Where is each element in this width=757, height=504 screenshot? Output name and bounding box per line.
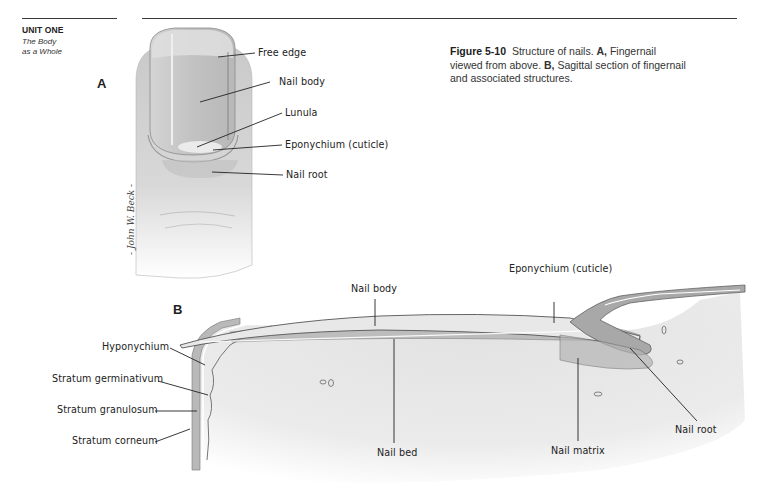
- label-nail-body-a: Nail body: [279, 76, 325, 87]
- label-lunula: Lunula: [285, 107, 318, 118]
- label-nail-matrix: Nail matrix: [551, 445, 605, 456]
- sagittal-section-illustration: [180, 285, 745, 483]
- label-nail-root-b: Nail root: [675, 424, 717, 435]
- panel-b-label: B: [173, 302, 182, 317]
- label-stratum-germinativum: Stratum germinativum: [52, 373, 163, 384]
- nail-illustrations: [0, 0, 757, 504]
- finger-illustration: [136, 28, 252, 278]
- label-free-edge: Free edge: [258, 47, 306, 58]
- label-stratum-granulosum: Stratum granulosum: [57, 404, 158, 415]
- label-nail-root-a: Nail root: [286, 169, 328, 180]
- label-nail-body-b: Nail body: [351, 283, 397, 294]
- label-eponychium-a: Eponychium (cuticle): [285, 139, 388, 150]
- label-nail-bed: Nail bed: [377, 447, 417, 458]
- label-eponychium-b: Eponychium (cuticle): [509, 263, 612, 274]
- panel-a-label: A: [97, 76, 106, 91]
- artist-signature: - John W. Beck -: [126, 184, 136, 255]
- label-hyponychium: Hyponychium: [102, 341, 169, 352]
- label-stratum-corneum: Stratum corneum: [72, 435, 158, 446]
